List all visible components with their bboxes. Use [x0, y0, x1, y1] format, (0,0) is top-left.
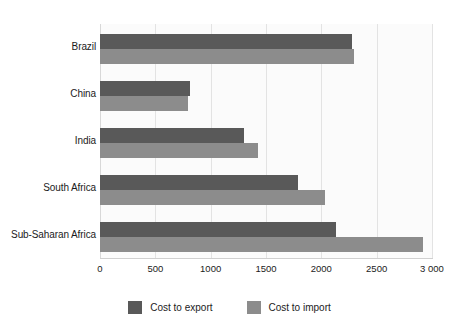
y-axis-label-brazil: Brazil: [0, 41, 96, 52]
x-axis-tick-labels: 050010001500200025003 000: [0, 263, 459, 279]
legend-swatch-icon: [128, 301, 142, 314]
x-axis-tick-1000: 1000: [200, 263, 221, 274]
bar-import: [100, 237, 423, 252]
bar-export: [100, 81, 190, 96]
x-axis-tick-1500: 1500: [255, 263, 276, 274]
chart-legend: Cost to exportCost to import: [0, 297, 459, 317]
bar-group: [100, 34, 432, 64]
bar-export: [100, 128, 244, 143]
bar-group: [100, 81, 432, 111]
bar-export: [100, 175, 298, 190]
bar-export: [100, 222, 336, 237]
bar-import: [100, 96, 188, 111]
bar-export: [100, 34, 352, 49]
legend-label: Cost to export: [150, 302, 212, 313]
x-axis-tick-3000: 3 000: [420, 263, 444, 274]
legend-item-cost-to-import[interactable]: Cost to import: [247, 301, 331, 314]
x-axis-tick-500: 500: [147, 263, 163, 274]
x-axis-tick-0: 0: [97, 263, 102, 274]
y-axis-label-south-africa: South Africa: [0, 182, 96, 193]
bar-import: [100, 190, 325, 205]
legend-swatch-icon: [247, 301, 261, 314]
bar-chart: BrazilChinaIndiaSouth AfricaSub-Saharan …: [0, 0, 459, 334]
gridline-3000: [432, 24, 433, 259]
y-axis-label-sub-saharan-africa: Sub-Saharan Africa: [0, 229, 96, 240]
y-axis-label-china: China: [0, 88, 96, 99]
bar-group: [100, 175, 432, 205]
y-axis-label-india: India: [0, 135, 96, 146]
bar-group: [100, 222, 432, 252]
x-axis-tick-2000: 2000: [311, 263, 332, 274]
legend-label: Cost to import: [269, 302, 331, 313]
x-axis-tick-2500: 2500: [366, 263, 387, 274]
x-axis-line: [100, 258, 433, 259]
bar-group: [100, 128, 432, 158]
bar-import: [100, 49, 354, 64]
plot-area: [100, 24, 432, 259]
bar-import: [100, 143, 258, 158]
y-axis-category-labels: BrazilChinaIndiaSouth AfricaSub-Saharan …: [0, 24, 96, 259]
legend-item-cost-to-export[interactable]: Cost to export: [128, 301, 212, 314]
